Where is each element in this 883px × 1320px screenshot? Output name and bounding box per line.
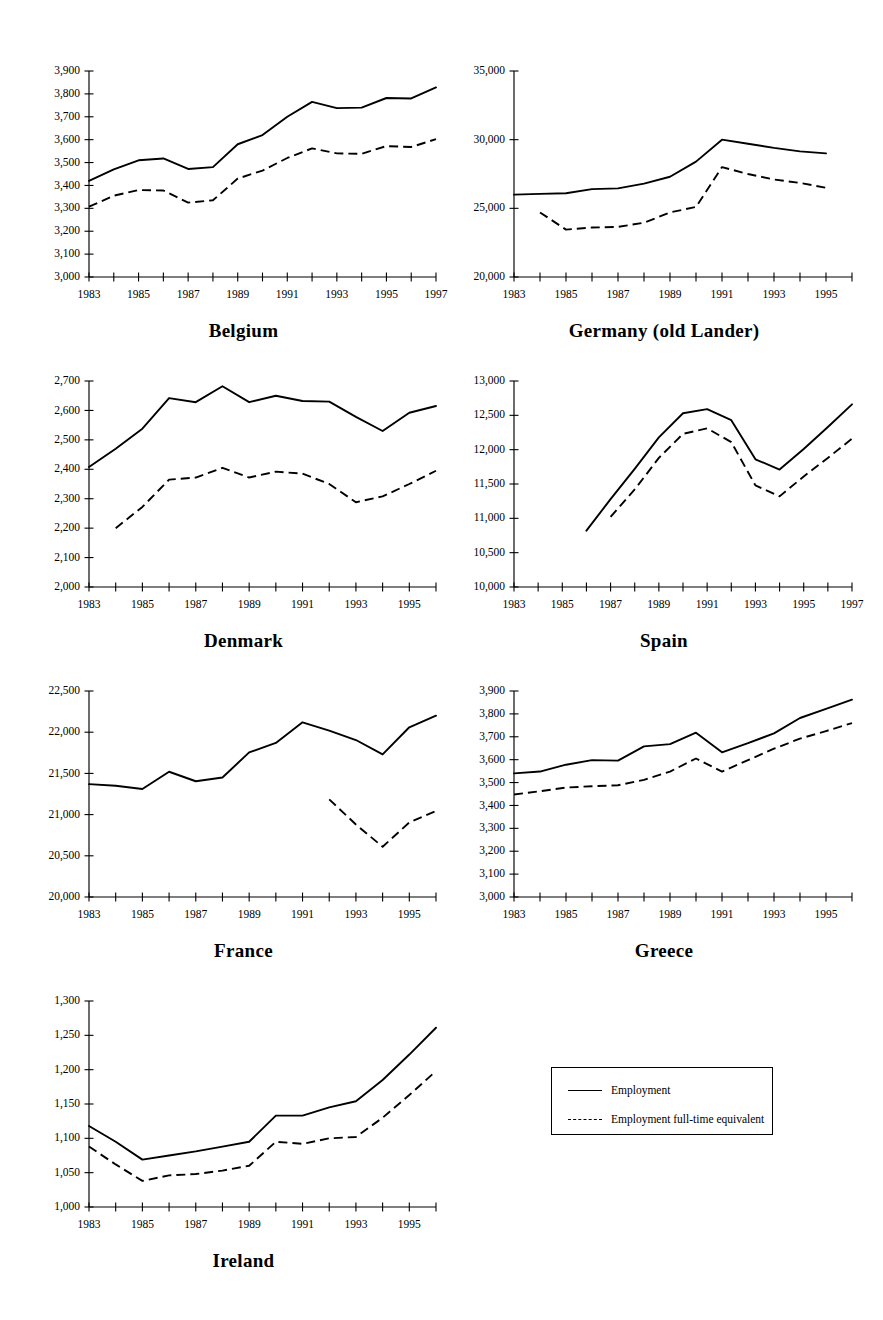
x-tick-label: 1987 <box>599 598 622 610</box>
panel-title: Belgium <box>29 320 458 342</box>
x-tick-label: 1993 <box>325 288 348 300</box>
plot-area-1: 20,00025,00030,00035,0001983198519871989… <box>454 57 874 323</box>
x-tick-label: 1989 <box>659 288 682 300</box>
x-tick-label: 1995 <box>398 598 421 610</box>
series-line-employment <box>89 386 436 467</box>
x-tick-label: 1983 <box>503 598 526 610</box>
figure-sheet: 3,0003,1003,2003,3003,4003,5003,6003,700… <box>0 0 883 1320</box>
x-tick-label: 1987 <box>177 288 200 300</box>
y-tick-label: 20,000 <box>473 270 505 283</box>
y-tick-label: 3,200 <box>479 844 505 857</box>
panel-title: Germany (old Lander) <box>454 320 874 342</box>
chart-legend: EmploymentEmployment full-time equivalen… <box>551 1067 773 1135</box>
y-tick-label: 20,500 <box>48 849 80 862</box>
x-tick-label: 1993 <box>763 908 786 920</box>
y-tick-label: 3,800 <box>479 707 505 720</box>
x-tick-label: 1997 <box>841 598 864 610</box>
x-tick-label: 1995 <box>815 288 838 300</box>
series-line-fte <box>514 723 852 794</box>
series-line-fte <box>89 139 436 207</box>
y-tick-label: 2,300 <box>54 492 80 505</box>
y-tick-label: 1,050 <box>54 1166 80 1179</box>
x-tick-label: 1991 <box>696 598 719 610</box>
plot-area-2: 2,0002,1002,2002,3002,4002,5002,6002,700… <box>29 367 458 633</box>
series-line-fte <box>89 1071 436 1181</box>
y-tick-label: 1,000 <box>54 1200 80 1213</box>
x-tick-label: 1983 <box>503 288 526 300</box>
x-tick-label: 1991 <box>711 288 734 300</box>
series-line-employment <box>514 140 826 195</box>
x-tick-label: 1993 <box>344 1218 367 1230</box>
x-tick-label: 1987 <box>607 288 630 300</box>
series-line-employment <box>89 87 436 180</box>
y-tick-label: 3,600 <box>54 133 80 146</box>
x-tick-label: 1983 <box>78 598 101 610</box>
x-tick-label: 1989 <box>659 908 682 920</box>
series-line-employment <box>89 1028 436 1160</box>
x-tick-label: 1995 <box>398 1218 421 1230</box>
panel-title: Spain <box>454 630 874 652</box>
panel-title: Ireland <box>29 1250 458 1272</box>
y-tick-label: 2,000 <box>54 580 80 593</box>
x-tick-label: 1989 <box>238 1218 261 1230</box>
x-tick-label: 1989 <box>226 288 249 300</box>
x-tick-label: 1991 <box>291 1218 314 1230</box>
y-tick-label: 1,300 <box>54 994 80 1007</box>
panel-title: Denmark <box>29 630 458 652</box>
y-tick-label: 21,500 <box>48 767 80 780</box>
y-tick-label: 11,500 <box>474 477 505 490</box>
series-line-fte <box>611 428 852 517</box>
x-tick-label: 1983 <box>78 908 101 920</box>
y-tick-label: 10,500 <box>473 546 505 559</box>
series-line-employment <box>586 404 852 530</box>
y-tick-label: 3,000 <box>479 890 505 903</box>
y-tick-label: 2,200 <box>54 521 80 534</box>
x-tick-label: 1993 <box>763 288 786 300</box>
series-line-fte <box>540 167 826 229</box>
x-tick-label: 1987 <box>184 1218 207 1230</box>
y-tick-label: 3,800 <box>54 87 80 100</box>
x-tick-label: 1993 <box>344 908 367 920</box>
x-tick-label: 1983 <box>503 908 526 920</box>
y-tick-label: 3,200 <box>54 224 80 237</box>
legend-label: Employment full-time equivalent <box>611 1113 764 1125</box>
x-tick-label: 1989 <box>238 908 261 920</box>
plot-area-6: 1,0001,0501,1001,1501,2001,2501,30019831… <box>29 987 458 1253</box>
plot-area-5: 3,0003,1003,2003,3003,4003,5003,6003,700… <box>454 677 874 943</box>
y-tick-label: 25,000 <box>473 201 505 214</box>
x-tick-label: 1985 <box>127 288 150 300</box>
x-tick-label: 1985 <box>555 908 578 920</box>
y-tick-label: 2,700 <box>54 374 80 387</box>
x-tick-label: 1985 <box>131 908 154 920</box>
x-tick-label: 1987 <box>184 908 207 920</box>
y-tick-label: 1,100 <box>54 1131 80 1144</box>
y-tick-label: 3,300 <box>54 201 80 214</box>
y-tick-label: 20,000 <box>48 890 80 903</box>
y-tick-label: 3,900 <box>54 64 80 77</box>
y-tick-label: 2,100 <box>54 551 80 564</box>
y-tick-label: 35,000 <box>473 64 505 77</box>
series-line-fte <box>329 799 436 846</box>
y-tick-label: 2,400 <box>54 462 80 475</box>
legend-line-swatch-dashed <box>568 1119 602 1120</box>
y-tick-label: 3,700 <box>479 730 505 743</box>
x-tick-label: 1983 <box>78 1218 101 1230</box>
x-tick-label: 1989 <box>238 598 261 610</box>
x-tick-label: 1987 <box>184 598 207 610</box>
legend-line-swatch-solid <box>568 1090 602 1091</box>
y-tick-label: 21,000 <box>48 808 80 821</box>
y-tick-label: 22,000 <box>48 725 80 738</box>
y-tick-label: 2,600 <box>54 404 80 417</box>
y-tick-label: 12,500 <box>473 408 505 421</box>
y-tick-label: 3,500 <box>54 156 80 169</box>
series-line-employment <box>89 716 436 789</box>
plot-area-4: 20,00020,50021,00021,50022,00022,5001983… <box>29 677 458 943</box>
y-tick-label: 3,700 <box>54 110 80 123</box>
y-tick-label: 13,000 <box>473 374 505 387</box>
x-tick-label: 1995 <box>398 908 421 920</box>
x-tick-label: 1993 <box>344 598 367 610</box>
panel-title: Greece <box>454 940 874 962</box>
legend-item-employment: Employment <box>568 1084 670 1096</box>
y-tick-label: 3,000 <box>54 270 80 283</box>
series-line-employment <box>514 700 852 774</box>
